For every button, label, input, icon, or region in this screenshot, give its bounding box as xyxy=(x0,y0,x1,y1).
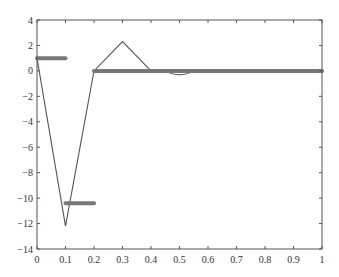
line-chart: 00.10.20.30.40.50.60.70.80.91 420−2−4−6−… xyxy=(0,0,339,277)
y-tick-label: −14 xyxy=(17,244,33,255)
y-axis-tick-labels: 420−2−4−6−8−10−12−14 xyxy=(17,15,33,255)
y-tick-label: 2 xyxy=(28,40,33,51)
x-tick-label: 0.9 xyxy=(287,254,300,265)
x-tick-label: 1 xyxy=(320,254,325,265)
x-tick-label: 0.6 xyxy=(202,254,215,265)
y-tick-label: −12 xyxy=(17,218,33,229)
y-tick-label: −8 xyxy=(22,167,33,178)
y-tick-label: 4 xyxy=(28,15,33,26)
axes xyxy=(37,20,322,249)
y-tick-label: −2 xyxy=(22,91,33,102)
x-tick-label: 0.8 xyxy=(259,254,272,265)
x-tick-label: 0.1 xyxy=(59,254,72,265)
y-tick-label: −4 xyxy=(22,116,33,127)
x-tick-label: 0.3 xyxy=(116,254,129,265)
x-tick-label: 0 xyxy=(35,254,40,265)
x-tick-label: 0.7 xyxy=(230,254,243,265)
x-tick-label: 0.5 xyxy=(173,254,186,265)
x-tick-label: 0.4 xyxy=(145,254,158,265)
x-tick-label: 0.2 xyxy=(88,254,101,265)
series-layer xyxy=(37,42,322,227)
y-tick-label: 0 xyxy=(28,65,33,76)
axes-box xyxy=(37,20,322,249)
x-axis-tick-labels: 00.10.20.30.40.50.60.70.80.91 xyxy=(35,254,325,265)
y-tick-label: −10 xyxy=(17,193,33,204)
y-tick-label: −6 xyxy=(22,142,33,153)
